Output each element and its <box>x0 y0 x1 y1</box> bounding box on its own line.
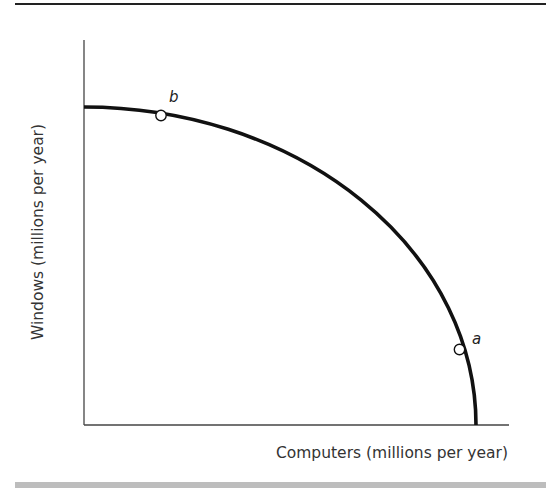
footer-bar <box>15 482 546 488</box>
ppf-curve <box>84 107 476 425</box>
point-b-marker <box>156 110 166 120</box>
y-axis-label: Windows (millions per year) <box>29 124 47 340</box>
point-a-label: a <box>472 330 481 348</box>
point-b-label: b <box>169 88 179 106</box>
x-axis-label: Computers (millions per year) <box>276 444 508 462</box>
ppf-chart <box>0 0 546 488</box>
point-a-marker <box>454 344 464 354</box>
